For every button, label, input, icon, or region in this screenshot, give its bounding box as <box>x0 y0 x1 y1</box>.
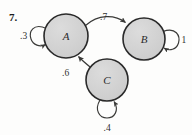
edge-label-a-to-b: .7 <box>100 12 107 22</box>
node-a[interactable]: A <box>44 14 88 58</box>
node-a-label: A <box>62 30 70 42</box>
node-b[interactable]: B <box>123 18 165 60</box>
state-diagram: 7. .3 1 .4 .7 .6 A <box>0 0 192 135</box>
figure-page: 7. .3 1 .4 .7 .6 A <box>0 0 192 135</box>
self-loop-c <box>97 100 116 118</box>
node-c-label: C <box>103 74 111 86</box>
edge-label-b-self: 1 <box>182 35 187 45</box>
edge-label-c-self: .4 <box>104 123 111 133</box>
edge-label-a-self: .3 <box>20 31 27 41</box>
node-c[interactable]: C <box>86 59 128 101</box>
edge-label-c-to-a: .6 <box>62 68 69 78</box>
problem-number: 7. <box>9 11 18 23</box>
node-b-label: B <box>141 33 148 45</box>
